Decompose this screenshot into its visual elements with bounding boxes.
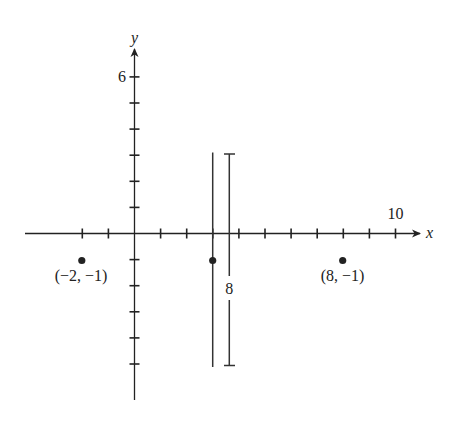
x-tick-label-10: 10 xyxy=(388,205,404,222)
x-axis-label: x xyxy=(425,224,433,241)
point-label-8-neg1: (8, −1) xyxy=(321,267,365,285)
y-axis-label: y xyxy=(129,29,139,47)
distance-marker xyxy=(224,154,235,366)
point-3-neg1 xyxy=(209,257,216,264)
point-label-neg2-neg1: (−2, −1) xyxy=(55,267,108,285)
y-tick-label-6: 6 xyxy=(118,68,126,85)
distance-label: 8 xyxy=(225,280,233,297)
point-8-neg1 xyxy=(339,257,346,264)
coordinate-plane: y x 6 10 (−2, −1) (8, −1) 8 xyxy=(0,0,459,427)
point-neg2-neg1 xyxy=(78,257,85,264)
